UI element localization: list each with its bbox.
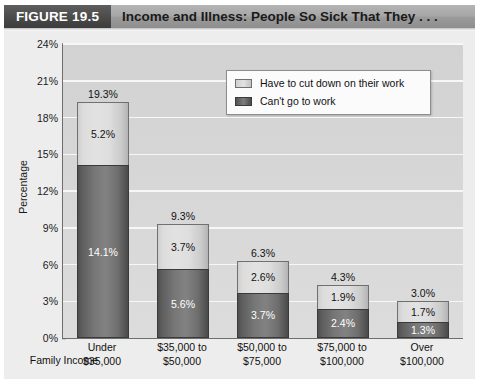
bar-group: 1.7%3.0%1.3% — [397, 301, 449, 338]
legend-swatch-dark-icon — [235, 97, 252, 106]
bar-segment-cut-down: 5.2%19.3% — [77, 102, 129, 166]
bar-segment-value: 3.7% — [238, 309, 288, 321]
bar-total-value: 6.3% — [228, 247, 298, 259]
y-tick-label: 15% — [18, 148, 58, 160]
bar-segment-value: 3.7% — [158, 241, 208, 253]
bar-segment-value: 1.7% — [398, 306, 448, 318]
figure-title: Income and Illness: People So Sick That … — [122, 5, 438, 28]
bar-group: 5.2%19.3%14.1% — [77, 102, 129, 338]
bar-segment-cut-down: 1.7%3.0% — [397, 301, 449, 322]
bar-group: 1.9%4.3%2.4% — [317, 285, 369, 338]
bar-group: 2.6%6.3%3.7% — [237, 261, 289, 338]
bar-segment-value: 1.9% — [318, 291, 368, 303]
legend-item-cut-down: Have to cut down on their work — [235, 76, 422, 90]
bar-segment-cut-down: 3.7%9.3% — [157, 224, 209, 269]
x-axis-title: Family Income — [12, 354, 98, 366]
y-tick-label: 6% — [18, 259, 58, 271]
y-axis-ticks: 0%3%6%9%12%15%18%21%24% — [14, 44, 58, 338]
bar-segment-cant-work: 3.7% — [237, 293, 289, 338]
legend-item-cant-work: Can't go to work — [235, 94, 422, 108]
bar-total-value: 4.3% — [308, 271, 378, 283]
chart-area: Percentage 0%3%6%9%12%15%18%21%24% 5.2%1… — [4, 31, 475, 379]
bar-segment-value: 5.2% — [78, 128, 128, 140]
bar-segment-cant-work: 1.3% — [397, 322, 449, 338]
bar-segment-value: 1.3% — [398, 324, 448, 336]
legend-label-cut-down: Have to cut down on their work — [260, 77, 404, 89]
bar-segment-cant-work: 2.4% — [317, 309, 369, 338]
figure-container: FIGURE 19.5 Income and Illness: People S… — [0, 0, 479, 383]
legend-swatch-light-icon — [235, 79, 252, 88]
legend-label-cant-work: Can't go to work — [260, 95, 336, 107]
figure-number-tag: FIGURE 19.5 — [4, 5, 111, 28]
bar-segment-value: 14.1% — [78, 246, 128, 258]
bar-segment-cant-work: 14.1% — [77, 165, 129, 338]
plot-area: 5.2%19.3%14.1%3.7%9.3%5.6%2.6%6.3%3.7%1.… — [62, 44, 463, 339]
y-tick-label: 21% — [18, 75, 58, 87]
bar-segment-value: 2.4% — [318, 317, 368, 329]
bar-segment-value: 5.6% — [158, 298, 208, 310]
y-tick-label: 3% — [18, 295, 58, 307]
bar-segment-value: 2.6% — [238, 271, 288, 283]
figure-header-bar: FIGURE 19.5 Income and Illness: People S… — [4, 5, 475, 28]
y-tick-label: 12% — [18, 185, 58, 197]
chart-legend: Have to cut down on their work Can't go … — [226, 70, 431, 115]
y-tick-label: 9% — [18, 222, 58, 234]
bar-group: 3.7%9.3%5.6% — [157, 224, 209, 338]
x-category-label: Over$100,000 — [374, 341, 470, 368]
y-tick-label: 18% — [18, 112, 58, 124]
x-category-line: $100,000 — [374, 355, 470, 369]
bar-segment-cut-down: 2.6%6.3% — [237, 261, 289, 293]
y-tick-label: 24% — [18, 38, 58, 50]
y-tick-label: 0% — [18, 332, 58, 344]
x-category-line: Over — [374, 341, 470, 355]
bar-segment-cant-work: 5.6% — [157, 269, 209, 338]
bar-total-value: 9.3% — [148, 210, 218, 222]
x-axis-categories: Under$35,000$35,000 to$50,000$50,000 to$… — [62, 341, 462, 373]
bar-segment-cut-down: 1.9%4.3% — [317, 285, 369, 308]
bar-total-value: 19.3% — [68, 88, 138, 100]
bar-total-value: 3.0% — [388, 287, 458, 299]
